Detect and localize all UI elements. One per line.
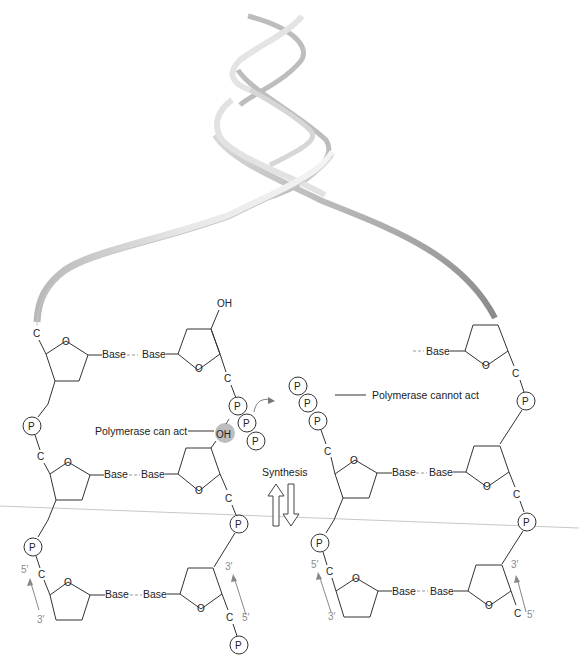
phosphate-label: P xyxy=(235,519,242,530)
carbon-label: C xyxy=(226,612,233,623)
oxygen-label: O xyxy=(64,577,72,588)
base-label: Base xyxy=(105,588,129,600)
phosphate-label: P xyxy=(243,418,250,429)
oxygen-label: O xyxy=(195,485,203,496)
hydroxyl-label: OH xyxy=(217,298,232,309)
phosphate-label: P xyxy=(234,401,241,412)
base-label: Base xyxy=(104,468,128,480)
carbon-label: C xyxy=(326,566,333,577)
oxygen-label: O xyxy=(482,360,490,371)
base-label: Base xyxy=(141,468,165,480)
phosphate-label: P xyxy=(252,436,259,447)
carbon-label: C xyxy=(38,569,45,580)
carbon-label: C xyxy=(37,451,44,462)
left-template-strand: C O Base P C O Base P C O Base 5′ xyxy=(21,328,142,625)
oxygen-label: O xyxy=(62,336,70,347)
dna-replication-diagram: C O Base P C O Base P C O Base 5′ xyxy=(0,0,579,669)
phosphate-label: P xyxy=(294,381,301,392)
phosphate-label: P xyxy=(235,640,242,651)
down-arrow-icon xyxy=(283,484,299,526)
five-prime-label: 5′ xyxy=(527,609,535,620)
phosphate-label: P xyxy=(316,538,323,549)
base-label: Base xyxy=(143,588,167,600)
hydroxyl-label: OH xyxy=(216,429,231,440)
base-label: Base xyxy=(102,348,126,360)
base-label: Base xyxy=(142,348,166,360)
oxygen-label: O xyxy=(483,481,491,492)
three-prime-label: 3′ xyxy=(225,561,233,572)
three-prime-label: 3′ xyxy=(37,614,45,625)
phosphate-label: P xyxy=(28,421,35,432)
double-helix-ribbon xyxy=(37,16,495,326)
carbon-label: C xyxy=(513,489,520,500)
base-label: Base xyxy=(430,585,454,597)
five-prime-label: 5′ xyxy=(242,612,250,623)
three-prime-label: 3′ xyxy=(328,611,336,622)
oxygen-label: O xyxy=(64,457,72,468)
carbon-label: C xyxy=(512,368,519,379)
oxygen-label: O xyxy=(197,603,205,614)
polymerase-can-act-label: Polymerase can act xyxy=(95,425,187,437)
three-prime-label: 3′ xyxy=(511,559,519,570)
oxygen-label: O xyxy=(195,363,203,374)
carbon-label: C xyxy=(514,608,521,619)
right-template-strand: Base O C P Base O C P Base O C 3′ 5′ xyxy=(413,325,536,620)
phosphate-label: P xyxy=(29,542,36,553)
base-label: Base xyxy=(392,585,416,597)
carbon-label: C xyxy=(33,328,40,339)
polymerase-cannot-act-label: Polymerase cannot act xyxy=(372,389,479,401)
oxygen-label: O xyxy=(350,455,358,466)
phosphate-label: P xyxy=(523,517,530,528)
phosphate-label: P xyxy=(314,416,321,427)
carbon-label: C xyxy=(225,493,232,504)
five-prime-label: 5′ xyxy=(311,559,319,570)
base-label: Base xyxy=(426,345,450,357)
oxygen-label: O xyxy=(352,573,360,584)
synthesis-label: Synthesis xyxy=(262,466,308,478)
carbon-label: C xyxy=(324,446,331,457)
five-prime-label: 5′ xyxy=(21,564,29,575)
phosphate-label: P xyxy=(522,396,529,407)
base-label: Base xyxy=(392,466,416,478)
phosphate-label: P xyxy=(304,398,311,409)
carbon-label: C xyxy=(224,373,231,384)
up-arrow-icon xyxy=(268,484,284,526)
oxygen-label: O xyxy=(485,600,493,611)
base-label: Base xyxy=(429,466,453,478)
